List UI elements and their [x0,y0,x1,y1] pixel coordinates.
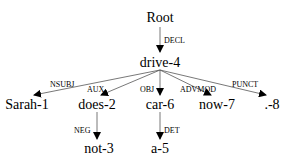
edge-label-aux: AUX [87,85,105,94]
edge-label-punct: PUNCT [232,80,258,89]
node-drive-4: drive-4 [140,55,180,70]
edge-label-obj: OBJ [140,85,154,94]
node-a-5: a-5 [151,141,169,156]
node-punct-8: .-8 [264,97,279,112]
edge-label-det: DET [164,126,180,135]
node-car-6: car-6 [146,97,174,112]
edge-label-nsubj: NSUBJ [50,80,74,89]
dependency-tree-diagram: DECL NSUBJ AUX OBJ ADVMOD PUNCT NEG DET … [0,0,288,168]
node-sarah-1: Sarah-1 [5,97,49,112]
node-does-2: does-2 [78,97,115,112]
node-now-7: now-7 [199,97,235,112]
edge-label-advmod: ADVMOD [180,85,216,94]
edge-label-decl: DECL [164,36,185,45]
node-not-3: not-3 [84,141,114,156]
edge-label-neg: NEG [74,126,91,135]
node-root: Root [146,10,173,25]
